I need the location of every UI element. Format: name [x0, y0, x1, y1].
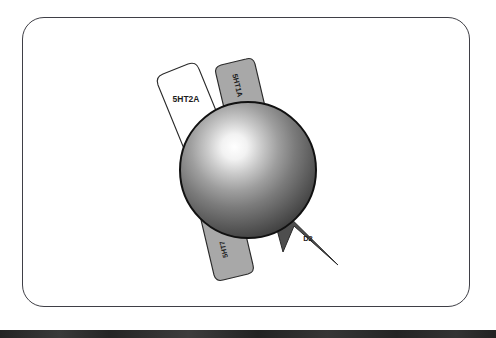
screenshot-stage: 5HT2A 5HT1A 5HT7 D2 — [0, 0, 496, 338]
receptor-5ht2a-label: 5HT2A — [173, 94, 200, 104]
receptor-d2-label: D2 — [303, 234, 313, 243]
bottom-status-bar — [0, 330, 496, 338]
central-sphere[interactable] — [180, 102, 316, 238]
receptor-diagram: 5HT2A 5HT1A 5HT7 D2 — [0, 0, 496, 338]
